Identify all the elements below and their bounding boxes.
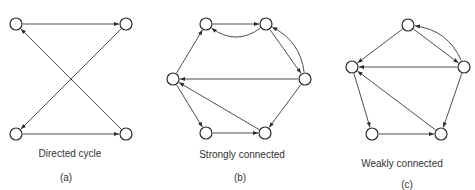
edge-b-TR-to-TL — [212, 28, 261, 37]
node-b-TR — [260, 18, 272, 30]
panel-b-nodes — [167, 18, 311, 139]
node-c-BR — [435, 128, 447, 140]
edge-c-R-to-T — [415, 26, 461, 61]
panel-a-tag: (a) — [60, 172, 72, 183]
node-c-R — [458, 61, 470, 73]
panel-c-nodes — [346, 19, 470, 140]
panel-b-edges — [177, 24, 305, 133]
edge-b-R-to-TR — [272, 27, 304, 72]
node-a-TL — [10, 18, 22, 30]
node-c-L — [346, 61, 358, 73]
edge-b-R-to-BR — [269, 85, 301, 128]
panel-c-tag: (c) — [401, 179, 413, 190]
node-a-BR — [120, 128, 132, 140]
edge-c-BR-to-L — [358, 71, 436, 130]
node-b-BR — [259, 127, 271, 139]
node-a-TR — [120, 18, 132, 30]
panel-c-caption: Weakly connected — [361, 158, 443, 169]
node-b-TL — [200, 18, 212, 30]
edge-b-L-to-BL — [177, 85, 203, 127]
panel-b-strongly-connected: Strongly connected (b) — [167, 18, 311, 183]
node-c-BL — [366, 128, 378, 140]
edge-c-R-to-BR — [443, 74, 461, 128]
node-a-BL — [10, 128, 22, 140]
edge-c-L-to-BL — [354, 74, 370, 128]
edge-b-L-to-TL — [177, 30, 203, 73]
edge-c-T-to-R — [414, 29, 459, 63]
panel-b-tag: (b) — [234, 172, 246, 183]
panel-a-edges — [21, 24, 121, 134]
edge-c-T-to-L — [358, 29, 403, 63]
node-b-R — [299, 73, 311, 85]
panel-c-weakly-connected: Weakly connected (c) — [346, 19, 470, 190]
panel-a-directed-cycle: Directed cycle (a) — [10, 18, 132, 183]
node-c-T — [402, 19, 414, 31]
node-b-BL — [200, 127, 212, 139]
panel-a-caption: Directed cycle — [39, 148, 102, 159]
graph-connectivity-figure: Directed cycle (a) Strongly connected (b… — [0, 0, 475, 190]
node-b-L — [167, 73, 179, 85]
panel-c-edges — [354, 26, 462, 134]
edge-b-BR-to-L — [179, 83, 259, 130]
panel-b-caption: Strongly connected — [199, 149, 285, 160]
